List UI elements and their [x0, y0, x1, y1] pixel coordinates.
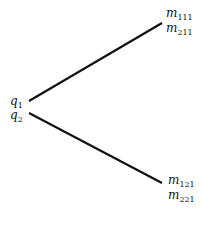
- edge-upper: [29, 23, 162, 101]
- label-m211: m211: [166, 22, 193, 39]
- label-q2: q2: [10, 109, 23, 126]
- label-m221: m221: [168, 189, 195, 206]
- edge-lower: [29, 113, 162, 183]
